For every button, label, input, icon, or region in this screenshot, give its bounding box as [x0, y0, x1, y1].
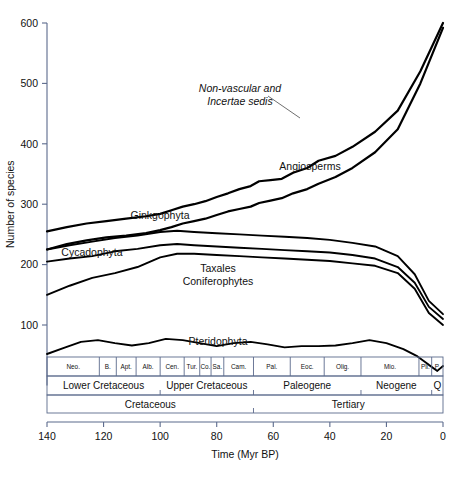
species-diversity-chart: 100200300400500600Number of speciesNon-v…	[0, 0, 468, 477]
x-axis-tick-label: 120	[95, 430, 113, 442]
series-label-non-vascular-and-incertae-sedis: Non-vascular andIncertae sedis	[199, 82, 282, 107]
series-label-pteridophyta: Pteridophyta	[189, 335, 248, 347]
timescale-label-co: Co.	[200, 363, 210, 370]
y-axis-tick-label: 300	[20, 198, 38, 210]
timescale-label-p: P.	[435, 363, 440, 370]
timescale-label-cam: Cam.	[231, 363, 246, 370]
series-label-angiosperms: Angiosperms	[279, 160, 340, 172]
timescale-label-b: B.	[105, 363, 111, 370]
timescale-label-upper-cretaceous: Upper Cretaceous	[166, 380, 247, 391]
timescale-label-tur: Tur.	[187, 363, 198, 370]
series-label-cycadophyta: Cycadophyta	[61, 246, 122, 258]
series-curve-cycadophyta	[47, 254, 443, 325]
y-axis-tick-label: 100	[20, 319, 38, 331]
chart-figure: 100200300400500600Number of speciesNon-v…	[0, 0, 468, 477]
y-axis-title: Number of species	[4, 160, 16, 248]
timescale-label-apt: Apt.	[121, 363, 133, 371]
timescale-label-cretaceous: Cretaceous	[125, 399, 176, 410]
y-axis-tick-label: 400	[20, 138, 38, 150]
timescale-label-olig: Olig.	[336, 363, 349, 371]
series-curve-angiosperms	[47, 28, 443, 250]
x-axis-tick-label: 100	[151, 430, 169, 442]
annotation-leader-line	[268, 96, 300, 118]
timescale-label-pal: Pal.	[266, 363, 277, 370]
series-curve-non-vascular-and-incertae-sedis	[47, 23, 443, 231]
timescale-label-pli: Pli.	[421, 363, 430, 370]
timescale-label-alb: Alb.	[143, 363, 154, 370]
x-axis-tick-label: 60	[267, 430, 279, 442]
timescale-label-neo: Neo.	[66, 363, 80, 370]
y-axis-tick-label: 600	[20, 17, 38, 29]
timescale-row-period	[47, 395, 443, 413]
timescale-label-neogene: Neogene	[376, 380, 417, 391]
x-axis-tick-label: 80	[211, 430, 223, 442]
x-axis-title: Time (Myr BP)	[211, 448, 278, 460]
timescale-label-q: Q	[433, 380, 441, 391]
x-axis-tick-label: 20	[381, 430, 393, 442]
y-axis-tick-label: 500	[20, 77, 38, 89]
series-label-taxales-coniferophytes: TaxalesConiferophytes	[183, 262, 254, 287]
timescale-label-mio: Mio.	[384, 363, 396, 370]
timescale-label-eoc: Eoc.	[301, 363, 314, 370]
series-curve-taxales-coniferophytes	[47, 231, 443, 314]
x-axis-tick-label: 40	[324, 430, 336, 442]
series-label-ginkgophyta: Ginkgophyta	[131, 209, 190, 221]
timescale-label-sa: Sa.	[213, 363, 223, 370]
timescale-label-tertiary: Tertiary	[332, 399, 365, 410]
x-axis-tick-label: 0	[440, 430, 446, 442]
x-axis-tick-label: 140	[38, 430, 56, 442]
timescale-label-lower-cretaceous: Lower Cretaceous	[63, 380, 144, 391]
timescale-label-cen: Cen.	[165, 363, 179, 370]
y-axis-tick-label: 200	[20, 258, 38, 270]
timescale-label-paleogene: Paleogene	[283, 380, 331, 391]
